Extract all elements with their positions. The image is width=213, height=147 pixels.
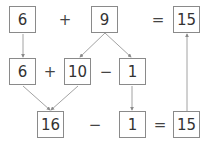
row2-operand-b: 10	[64, 58, 91, 85]
row1-equals-sign: =	[152, 11, 165, 29]
row2-minus-operator: −	[100, 63, 113, 81]
arrow-9-to-1	[105, 33, 131, 57]
arrow-10-to-16	[51, 86, 78, 110]
row1-operand-b: 9	[91, 6, 118, 33]
row3-operand-b: 1	[119, 111, 146, 138]
arrow-6-to-16	[23, 86, 50, 110]
row1-result: 15	[173, 6, 200, 33]
row1-operand-a: 6	[9, 6, 36, 33]
row3-equals-sign: =	[154, 116, 167, 134]
row3-minus-operator: −	[89, 116, 102, 134]
row2-operand-a: 6	[9, 58, 36, 85]
row3-result: 15	[173, 111, 200, 138]
row1-plus-operator: +	[59, 11, 72, 29]
row3-operand-a: 16	[37, 111, 64, 138]
row2-operand-c: 1	[119, 58, 146, 85]
arrow-9-to-10	[80, 33, 105, 57]
row2-plus-operator: +	[44, 63, 57, 81]
